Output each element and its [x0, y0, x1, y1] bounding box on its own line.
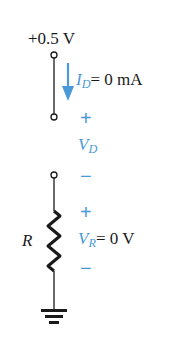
- supply-terminal: [51, 52, 57, 58]
- resistor-voltage-value: = 0 V: [96, 229, 135, 248]
- diode-plus-sign: +: [80, 108, 92, 128]
- resistor-label: R: [22, 232, 32, 249]
- diode-cathode-terminal: [51, 172, 57, 178]
- resistor-minus-sign: −: [80, 258, 92, 278]
- diode-voltage-symbol: V: [78, 135, 88, 154]
- resistor-voltage-label: VR= 0 V: [78, 230, 134, 249]
- current-arrow-icon: [62, 63, 74, 101]
- supply-voltage-label: +0.5 V: [28, 30, 75, 47]
- current-subscript: D: [82, 77, 91, 91]
- diode-voltage-subscript: D: [88, 142, 97, 156]
- current-value: = 0 mA: [91, 70, 143, 89]
- diode-current-label: ID= 0 mA: [76, 71, 143, 90]
- ground-icon: [41, 309, 67, 324]
- resistor-voltage-subscript: R: [88, 236, 95, 250]
- resistor-voltage-symbol: V: [78, 229, 88, 248]
- diode-anode-terminal: [51, 114, 57, 120]
- diode-voltage-label: VD: [78, 136, 97, 155]
- diode-minus-sign: −: [80, 166, 92, 186]
- resistor-icon: [48, 211, 60, 271]
- resistor-plus-sign: +: [80, 202, 92, 222]
